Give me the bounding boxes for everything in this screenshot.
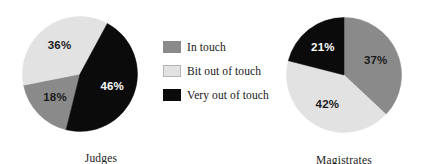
legend-swatch-very-out-of-touch <box>163 89 181 101</box>
legend-item-bit-out-of-touch: Bit out of touch <box>163 61 269 80</box>
pie-slice-label-very-out-of-touch: 46% <box>100 80 124 92</box>
pie-slice-label-in-touch: 18% <box>43 91 67 103</box>
pie-slice-label-bit-out-of-touch: 36% <box>48 39 72 51</box>
pie-chart-judges: 18% 36% 46% Judges <box>22 16 138 132</box>
pie-caption-judges: Judges <box>21 152 181 164</box>
legend-item-very-out-of-touch: Very out of touch <box>163 85 269 104</box>
legend-label-in-touch: In touch <box>187 41 226 53</box>
legend-item-in-touch: In touch <box>163 37 269 56</box>
pie-slice-label-very-out-of-touch: 21% <box>311 41 335 53</box>
chart-legend: In touch Bit out of touch Very out of to… <box>163 37 269 109</box>
legend-label-very-out-of-touch: Very out of touch <box>187 89 269 101</box>
legend-swatch-bit-out-of-touch <box>163 65 181 77</box>
legend-label-bit-out-of-touch: Bit out of touch <box>187 65 261 77</box>
two-pie-chart-figure: 18% 36% 46% Judges 37% 42% 21% Magistrat… <box>0 0 428 164</box>
pie-caption-magistrates: Magistrates <box>264 154 424 164</box>
pie-magistrates-svg: 37% 42% 21% <box>286 17 402 133</box>
pie-chart-magistrates: 37% 42% 21% Magistrates <box>286 17 402 133</box>
pie-judges-svg: 18% 36% 46% <box>22 16 138 132</box>
pie-slice-label-in-touch: 37% <box>364 54 388 66</box>
pie-judges-slices <box>23 17 138 132</box>
pie-slice-label-bit-out-of-touch: 42% <box>316 98 340 110</box>
pie-magistrates-slices <box>287 18 402 133</box>
legend-swatch-in-touch <box>163 41 181 53</box>
